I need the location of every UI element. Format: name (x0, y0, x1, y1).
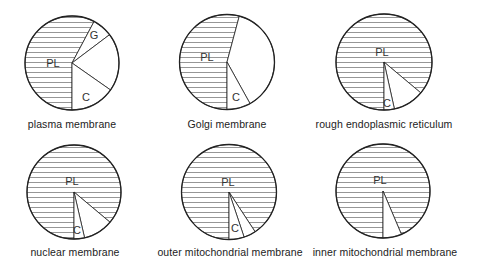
pie-chart-rough-endoplasmic-reticulum: PLC (336, 14, 432, 110)
chart-caption: inner mitochondrial membrane (313, 246, 458, 258)
slice-label-pl: PL (373, 174, 386, 186)
slice-label-g: G (90, 29, 99, 41)
slice-label-pl: PL (375, 46, 388, 58)
pie-chart-grid: PLGCPLCPLCPLCPLCPL (0, 0, 479, 261)
slice-label-pl: PL (200, 51, 213, 63)
slice-label-pl: PL (46, 57, 59, 69)
chart-caption: Golgi membrane (187, 118, 266, 130)
chart-caption: outer mitochondrial membrane (157, 246, 302, 258)
slice-label-pl: PL (65, 175, 78, 187)
slice-label-pl: PL (221, 176, 234, 188)
slice-label-c: C (383, 97, 391, 109)
pie-chart-inner-mitochondrial-membrane: PL (336, 144, 430, 238)
pie-chart-plasma-membrane: PLGC (25, 16, 119, 110)
pie-chart-outer-mitochondrial-membrane: PLC (182, 145, 277, 240)
slice-label-c: C (82, 91, 90, 103)
pie-chart-Golgi-membrane: PLC (180, 14, 275, 109)
chart-caption: nuclear membrane (30, 246, 119, 258)
slice-label-c: C (73, 224, 81, 236)
slice-label-c: C (231, 222, 239, 234)
chart-caption: rough endoplasmic reticulum (316, 118, 453, 130)
chart-caption: plasma membrane (28, 118, 116, 130)
pie-chart-nuclear-membrane: PLC (27, 145, 121, 239)
slice-label-c: C (232, 91, 240, 103)
